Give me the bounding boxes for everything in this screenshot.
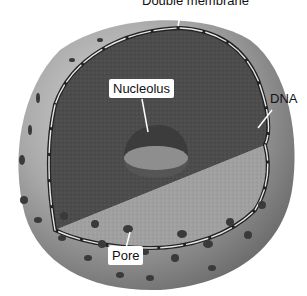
label-double-membrane: Double membrane — [142, 0, 249, 8]
nucleus-illustration — [0, 0, 307, 296]
nucleus-diagram: Double membrane Nucleolus DNA Pore — [0, 0, 307, 296]
label-pore: Pore — [108, 246, 143, 265]
label-nucleolus: Nucleolus — [109, 79, 174, 98]
label-dna: DNA — [270, 91, 297, 106]
